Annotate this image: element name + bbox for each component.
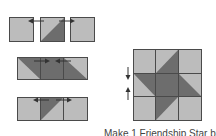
arrow-right-icon [55, 89, 72, 107]
arrow-left-icon [28, 10, 45, 28]
arrow-up-icon [125, 86, 131, 104]
arrow-right-icon [33, 50, 50, 68]
friendship-star-block [133, 49, 202, 121]
arrow-left-icon [55, 50, 72, 68]
row-2-strip [17, 57, 88, 80]
arrow-down-icon [125, 66, 131, 84]
arrow-right-icon [58, 10, 75, 28]
arrow-left-icon [33, 89, 50, 107]
caption: Make 1 Friendship Star block [104, 128, 216, 136]
row-3-strip [17, 97, 88, 121]
